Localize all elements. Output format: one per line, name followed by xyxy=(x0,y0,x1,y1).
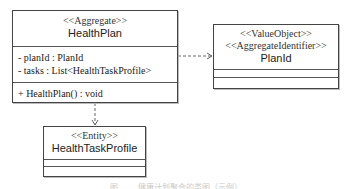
class-name: HealthPlan xyxy=(13,27,177,40)
class-name: HealthTaskProfile xyxy=(44,142,145,155)
operations-section: + HealthPlan() : void xyxy=(13,83,177,100)
figure-caption: 图 ...... 健康计划聚合的类图（示例） xyxy=(0,181,352,189)
attributes-section xyxy=(44,160,145,167)
class-healthtaskprofile[interactable]: <<Entity>> HealthTaskProfile xyxy=(43,126,146,177)
operation-item: + HealthPlan() : void xyxy=(13,87,177,100)
stereotype-label: <<AggregateIdentifier>> xyxy=(214,40,338,52)
attributes-section xyxy=(214,70,338,78)
stereotype-label: <<ValueObject>> xyxy=(214,28,338,40)
stereotype-label: <<Entity>> xyxy=(44,130,145,142)
attribute-item: - tasks : List<HealthTaskProfile> xyxy=(13,64,177,77)
class-header: <<Aggregate>> HealthPlan xyxy=(13,11,177,47)
class-healthplan[interactable]: <<Aggregate>> HealthPlan - planId : Plan… xyxy=(12,10,178,103)
operations-section xyxy=(44,167,145,176)
attributes-section: - planId : PlanId - tasks : List<HealthT… xyxy=(13,47,177,83)
operations-section xyxy=(214,78,338,88)
class-name: PlanId xyxy=(214,52,338,65)
stereotype-label: <<Aggregate>> xyxy=(13,15,177,27)
class-header: <<ValueObject>> <<AggregateIdentifier>> … xyxy=(214,25,338,70)
class-planid[interactable]: <<ValueObject>> <<AggregateIdentifier>> … xyxy=(213,24,339,89)
attribute-item: - planId : PlanId xyxy=(13,51,177,64)
class-header: <<Entity>> HealthTaskProfile xyxy=(44,127,145,160)
dependency-healthplan-planid xyxy=(178,53,212,59)
dependency-healthplan-healthtaskprofile xyxy=(92,103,98,125)
